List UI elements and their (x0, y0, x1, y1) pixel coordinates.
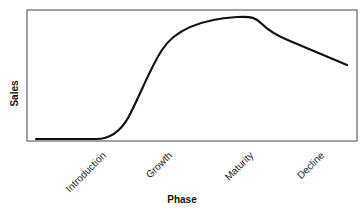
y-axis-title: Sales (9, 74, 20, 114)
chart-canvas (0, 0, 364, 208)
plot-frame (27, 10, 357, 141)
sales-curve (36, 17, 347, 139)
x-axis-title: Phase (0, 194, 364, 205)
